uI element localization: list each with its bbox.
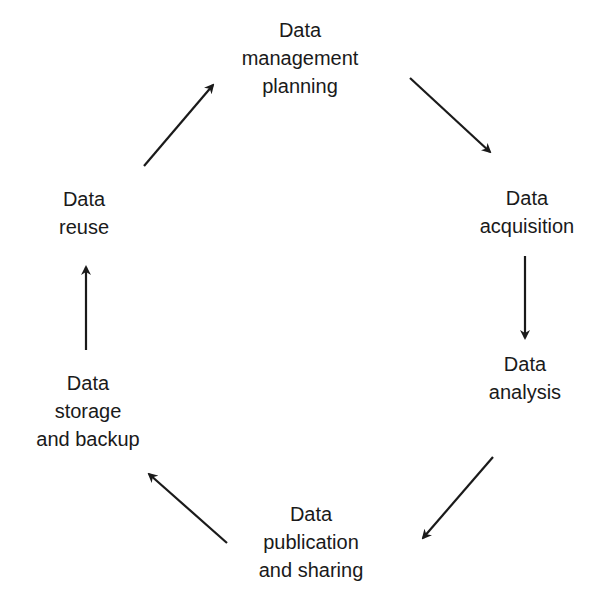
node-label-line: and sharing (259, 556, 364, 584)
node-label-line: Data (59, 185, 109, 213)
node-data-management-planning: Data management planning (242, 16, 359, 100)
node-label-line: analysis (489, 378, 561, 406)
node-label-line: Data (489, 350, 561, 378)
node-label-line: reuse (59, 213, 109, 241)
node-label-line: Data (480, 184, 575, 212)
node-label-line: publication (259, 528, 364, 556)
node-data-analysis: Data analysis (489, 350, 561, 406)
arrow-reuse-to-planning (144, 85, 213, 166)
node-label-line: storage (36, 397, 139, 425)
node-data-acquisition: Data acquisition (480, 184, 575, 240)
node-label-line: Data (36, 369, 139, 397)
node-data-reuse: Data reuse (59, 185, 109, 241)
arrow-planning-to-acquisition (410, 78, 490, 152)
node-data-storage-and-backup: Data storage and backup (36, 369, 139, 453)
arrow-publication-to-storage (149, 474, 227, 543)
node-label-line: and backup (36, 425, 139, 453)
node-data-publication-and-sharing: Data publication and sharing (259, 500, 364, 584)
node-label-line: management (242, 44, 359, 72)
node-label-line: Data (242, 16, 359, 44)
arrow-analysis-to-publication (423, 457, 493, 538)
node-label-line: Data (259, 500, 364, 528)
node-label-line: planning (242, 72, 359, 100)
node-label-line: acquisition (480, 212, 575, 240)
